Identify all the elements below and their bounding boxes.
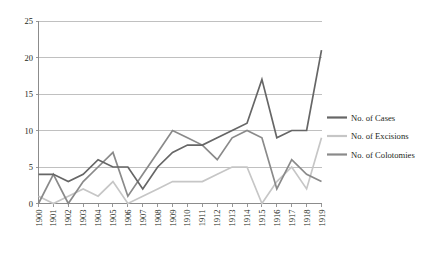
x-tick-label: 1918	[302, 210, 312, 227]
x-axis-tick-labels: 1900190119021903190419051906190719081909…	[34, 209, 327, 227]
x-tick-label: 1915	[257, 210, 267, 227]
x-tick-label: 1902	[63, 210, 73, 227]
legend-label: No. of Excisions	[351, 131, 409, 141]
x-tick-label: 1917	[287, 210, 297, 227]
x-tick-label: 1910	[182, 210, 192, 227]
x-tick-label: 1909	[168, 210, 178, 227]
series-line-no-of-excisions	[39, 138, 322, 204]
x-tick-label: 1900	[34, 210, 44, 227]
gridlines	[39, 21, 322, 167]
y-tick-label: 15	[25, 89, 34, 99]
chart-canvas: 0510152025 19001901190219031904190519061…	[0, 0, 438, 262]
x-tick-label: 1907	[138, 210, 148, 227]
x-tick-label: 1911	[197, 210, 207, 227]
y-tick-label: 0	[29, 199, 33, 209]
y-tick-label: 10	[25, 126, 34, 136]
x-tick-label: 1904	[93, 209, 103, 227]
x-tick-label: 1901	[48, 210, 58, 227]
x-tick-label: 1903	[78, 210, 88, 227]
y-tick-label: 25	[25, 16, 34, 26]
x-tick-label: 1912	[212, 210, 222, 227]
x-tick-label: 1916	[272, 210, 282, 227]
y-axis-tick-labels: 0510152025	[25, 16, 34, 209]
legend-label: No. of Cases	[351, 113, 396, 123]
y-tick-label: 20	[25, 53, 34, 63]
x-tick-label: 1914	[242, 209, 252, 227]
chart-legend: No. of CasesNo. of ExcisionsNo. of Colot…	[327, 113, 415, 160]
legend-label: No. of Colotomies	[351, 150, 415, 160]
series-line-no-of-cases	[39, 50, 322, 189]
line-chart: 0510152025 19001901190219031904190519061…	[0, 0, 438, 262]
data-series-group	[39, 50, 322, 203]
x-tick-label: 1908	[153, 210, 163, 227]
x-tick-label: 1919	[317, 210, 327, 227]
y-tick-label: 5	[29, 162, 33, 172]
x-tick-label: 1906	[123, 210, 133, 227]
x-tick-label: 1913	[227, 210, 237, 227]
x-tick-label: 1905	[108, 210, 118, 227]
